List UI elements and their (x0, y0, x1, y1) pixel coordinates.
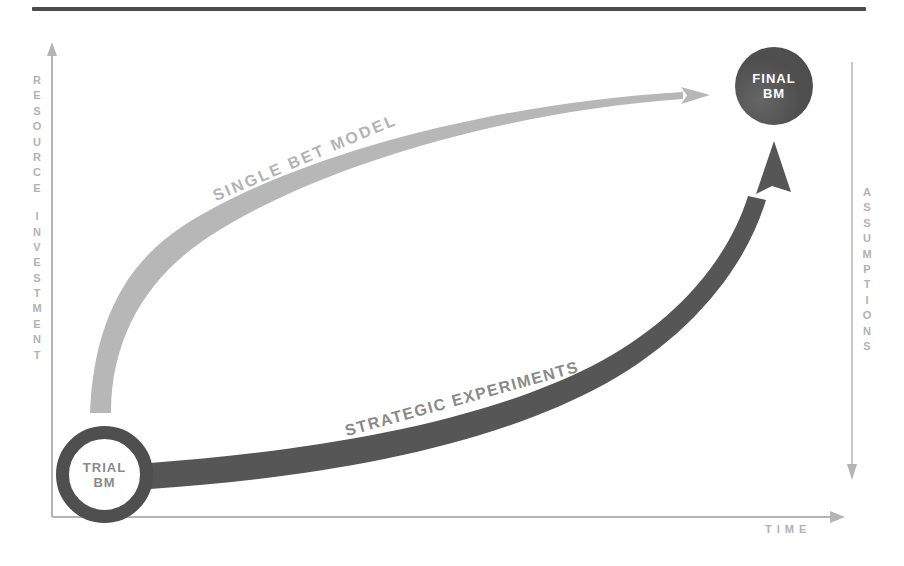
strategic-curve (150, 196, 766, 489)
final-bm-node: FINAL BM (735, 47, 813, 125)
diagram-canvas: RESOURCE INVESTMENT ASSUMPTIONS TIME SIN… (0, 0, 904, 566)
x-axis-arrow-right-icon (830, 511, 845, 523)
trial-bm-node: TRIAL BM (56, 426, 153, 523)
final-bm-label-line1: FINAL (752, 71, 795, 86)
trial-bm-label-line1: TRIAL (83, 460, 126, 475)
single-bet-arrowhead-icon (681, 87, 710, 104)
single-bet-curve (90, 92, 683, 413)
right-axis-label-assumptions: ASSUMPTIONS (857, 185, 877, 354)
final-bm-label-line2: BM (763, 86, 785, 101)
y-axis-arrow-up-icon (47, 42, 57, 56)
trial-bm-label-line2: BM (93, 475, 115, 490)
x-axis-label-time: TIME (765, 523, 811, 535)
assumptions-arrow-down-icon (847, 464, 857, 480)
strategic-arrowhead-icon (756, 141, 791, 194)
y-axis-label-resource-investment: RESOURCE INVESTMENT (27, 73, 47, 363)
